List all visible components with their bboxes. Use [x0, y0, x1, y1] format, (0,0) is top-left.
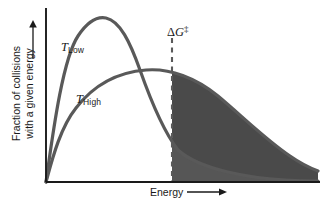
t-high-symbol: T — [76, 92, 83, 106]
t-low-symbol: T — [61, 40, 68, 54]
x-axis-title: Energy — [150, 186, 183, 198]
y-axis-title-line1: Fraction of collisions — [11, 45, 24, 140]
chart-canvas — [0, 0, 325, 211]
activation-energy-label: ΔG‡ — [167, 24, 189, 40]
t-high-subscript: High — [83, 97, 101, 107]
x-axis-arrow-icon — [187, 187, 229, 197]
maxwell-boltzmann-distribution-figure: Fraction of collisions with a given ener… — [0, 0, 325, 211]
delta-symbol: Δ — [167, 25, 175, 39]
t-low-subscript: Low — [68, 45, 84, 55]
curve-label-t-low: TLow — [61, 40, 84, 55]
gibbs-g-symbol: G — [175, 25, 184, 39]
curve-label-t-high: THigh — [76, 92, 101, 107]
double-dagger-symbol: ‡ — [184, 24, 189, 34]
x-axis-title-group: Energy — [150, 186, 229, 198]
y-axis-arrow-icon — [26, 18, 40, 60]
